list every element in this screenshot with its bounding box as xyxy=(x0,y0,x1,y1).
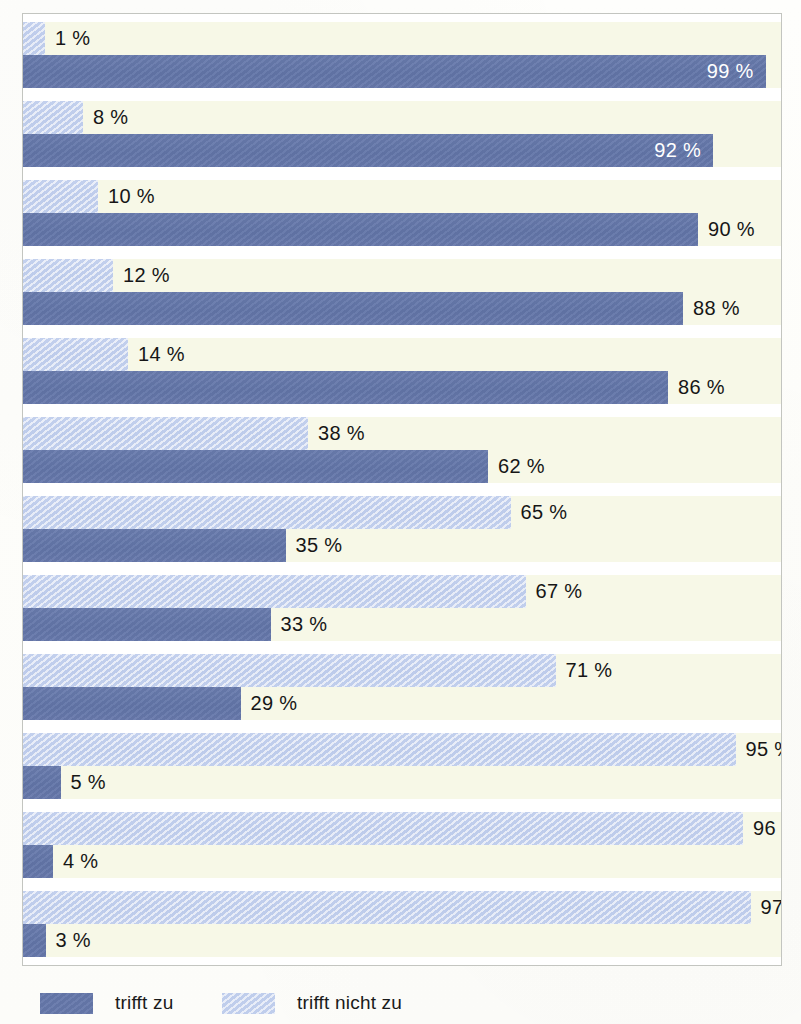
bar-trifft-zu[interactable] xyxy=(23,608,271,641)
bar-trifft-nicht-zu[interactable] xyxy=(23,338,128,371)
bar-trifft-zu[interactable] xyxy=(23,529,286,562)
bar-trifft-zu[interactable] xyxy=(23,213,698,246)
bar-trifft-nicht-zu[interactable] xyxy=(23,417,308,450)
bar-value-label-trifft-zu: 5 % xyxy=(71,766,106,799)
legend-item-trifft-zu[interactable]: trifft zu xyxy=(40,988,173,1018)
bar-value-label-trifft-nicht-zu: 96 % xyxy=(753,812,782,845)
bar-trifft-zu[interactable] xyxy=(23,845,53,878)
bar-trifft-zu[interactable] xyxy=(23,924,46,957)
bar-value-label-trifft-zu: 29 % xyxy=(251,687,298,720)
bar-value-label-trifft-nicht-zu: 12 % xyxy=(123,259,170,292)
bar-value-label-trifft-zu: 99 % xyxy=(707,55,754,88)
bar-group: 38 %62 % xyxy=(23,417,781,483)
bar-value-label-trifft-nicht-zu: 97 % xyxy=(761,891,783,924)
bar-value-label-trifft-zu: 92 % xyxy=(654,134,701,167)
bar-trifft-zu[interactable] xyxy=(23,371,668,404)
bar-value-label-trifft-zu: 35 % xyxy=(296,529,343,562)
bar-group: 12 %88 % xyxy=(23,259,781,325)
bar-group: 8 %92 % xyxy=(23,101,781,167)
chart-plot-area: 1 %99 %8 %92 %10 %90 %12 %88 %14 %86 %38… xyxy=(23,14,781,965)
bar-trifft-nicht-zu[interactable] xyxy=(23,22,45,55)
legend-label-trifft-zu: trifft zu xyxy=(115,992,173,1014)
bar-group: 67 %33 % xyxy=(23,575,781,641)
bar-trifft-nicht-zu[interactable] xyxy=(23,812,743,845)
bar-trifft-nicht-zu[interactable] xyxy=(23,496,511,529)
bar-value-label-trifft-zu: 3 % xyxy=(56,924,91,957)
legend-item-trifft-nicht-zu[interactable]: trifft nicht zu xyxy=(222,988,402,1018)
chart-frame: 1 %99 %8 %92 %10 %90 %12 %88 %14 %86 %38… xyxy=(22,13,782,966)
bar-value-label-trifft-nicht-zu: 65 % xyxy=(521,496,568,529)
bar-trifft-nicht-zu[interactable] xyxy=(23,180,98,213)
bar-value-label-trifft-zu: 88 % xyxy=(693,292,740,325)
bar-trifft-nicht-zu[interactable] xyxy=(23,575,526,608)
bar-trifft-zu[interactable] xyxy=(23,766,61,799)
chart-legend: trifft zu trifft nicht zu xyxy=(22,988,782,1020)
bar-trifft-nicht-zu[interactable] xyxy=(23,259,113,292)
bar-value-label-trifft-nicht-zu: 67 % xyxy=(536,575,583,608)
bar-value-label-trifft-nicht-zu: 95 % xyxy=(746,733,783,766)
bar-value-label-trifft-nicht-zu: 71 % xyxy=(566,654,613,687)
bar-group: 10 %90 % xyxy=(23,180,781,246)
bar-trifft-zu[interactable] xyxy=(23,134,713,167)
bar-trifft-nicht-zu[interactable] xyxy=(23,733,736,766)
bar-value-label-trifft-zu: 4 % xyxy=(63,845,98,878)
bar-trifft-zu[interactable] xyxy=(23,450,488,483)
bar-value-label-trifft-zu: 62 % xyxy=(498,450,545,483)
bar-value-label-trifft-nicht-zu: 14 % xyxy=(138,338,185,371)
bar-trifft-nicht-zu[interactable] xyxy=(23,891,751,924)
legend-label-trifft-nicht-zu: trifft nicht zu xyxy=(297,992,402,1014)
bar-value-label-trifft-nicht-zu: 10 % xyxy=(108,180,155,213)
bar-trifft-nicht-zu[interactable] xyxy=(23,101,83,134)
bar-group: 96 %4 % xyxy=(23,812,781,878)
bar-trifft-zu[interactable] xyxy=(23,292,683,325)
bar-group: 95 %5 % xyxy=(23,733,781,799)
bar-value-label-trifft-zu: 86 % xyxy=(678,371,725,404)
bar-group: 71 %29 % xyxy=(23,654,781,720)
legend-swatch-trifft-nicht-zu xyxy=(222,993,275,1014)
bar-value-label-trifft-zu: 33 % xyxy=(281,608,328,641)
bar-group: 65 %35 % xyxy=(23,496,781,562)
bar-value-label-trifft-nicht-zu: 38 % xyxy=(318,417,365,450)
bar-trifft-zu[interactable] xyxy=(23,687,241,720)
bar-group: 14 %86 % xyxy=(23,338,781,404)
bar-group: 1 %99 % xyxy=(23,22,781,88)
bar-value-label-trifft-zu: 90 % xyxy=(708,213,755,246)
legend-swatch-trifft-zu xyxy=(40,993,93,1014)
bar-value-label-trifft-nicht-zu: 1 % xyxy=(55,22,90,55)
bar-trifft-zu[interactable] xyxy=(23,55,766,88)
bar-group: 97 %3 % xyxy=(23,891,781,957)
bar-trifft-nicht-zu[interactable] xyxy=(23,654,556,687)
bar-value-label-trifft-nicht-zu: 8 % xyxy=(93,101,128,134)
